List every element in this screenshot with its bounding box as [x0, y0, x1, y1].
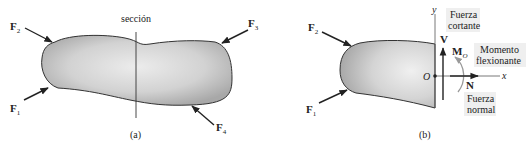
caption-b: (b)	[419, 129, 431, 141]
origin-label: O	[423, 71, 430, 82]
origin-point	[433, 74, 437, 78]
section-label: sección	[121, 13, 151, 24]
force-f2-arrow-b	[322, 32, 351, 46]
y-axis-label: y	[431, 4, 437, 15]
force-f1-label-b: F1	[306, 103, 317, 118]
normal-force-symbol: N	[466, 79, 474, 91]
shear-label-line1: Fuerza	[450, 9, 478, 20]
bending-moment-arrow	[455, 57, 464, 92]
shear-label-line2: cortante	[448, 20, 481, 31]
moment-label-line1: Momento	[480, 44, 519, 55]
x-axis-label: x	[501, 70, 507, 81]
force-f1-arrow	[24, 88, 48, 100]
caption-a: (a)	[130, 129, 141, 141]
moment-label-line2: flexionante	[476, 55, 522, 66]
shear-force-symbol: V	[440, 33, 448, 45]
internal-loadings-diagram: sección F2 F1 F3 F4 (a) F2	[0, 0, 527, 147]
bending-moment-symbol: MO	[452, 45, 467, 60]
force-f4-arrow	[192, 106, 214, 125]
force-f2-label-b: F2	[308, 21, 319, 36]
force-f1-label: F1	[10, 102, 21, 117]
figure-b: F2 F1 y x O V Fuerza cortante MO Momento…	[306, 4, 526, 141]
force-f2-arrow	[25, 28, 52, 42]
normal-label-line2: normal	[467, 104, 496, 115]
force-f3-arrow	[222, 30, 248, 43]
force-f4-label: F4	[216, 121, 227, 136]
body-shape-cut	[340, 40, 435, 108]
body-shape	[42, 35, 232, 105]
normal-label-line1: Fuerza	[467, 93, 495, 104]
force-f1-arrow-b	[319, 90, 347, 103]
figure-a: sección F2 F1 F3 F4 (a)	[10, 13, 259, 141]
force-f2-label: F2	[10, 20, 21, 35]
force-f3-label: F3	[248, 17, 259, 32]
